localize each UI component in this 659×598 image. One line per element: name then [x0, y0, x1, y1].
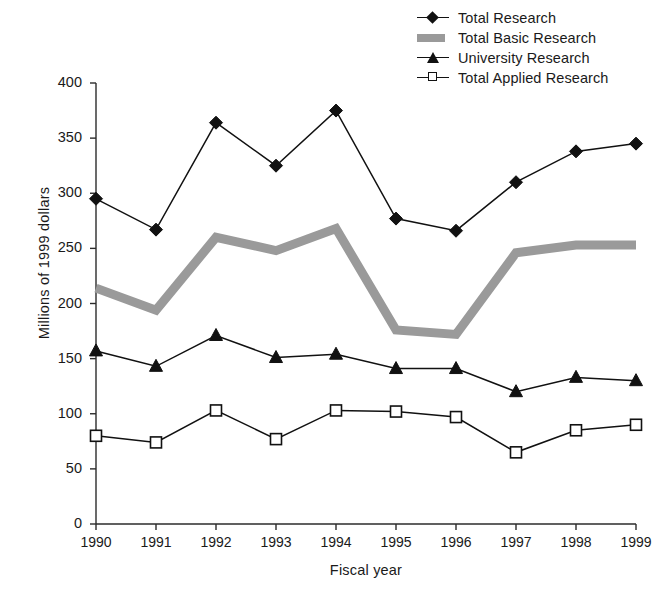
x-tick-label: 1997: [486, 534, 546, 550]
x-tick-label: 1996: [426, 534, 486, 550]
x-tick-label: 1992: [186, 534, 246, 550]
y-tick-label: 350: [38, 129, 82, 145]
x-tick-label: 1991: [126, 534, 186, 550]
x-tick-label: 1995: [366, 534, 426, 550]
y-tick-label: 200: [38, 295, 82, 311]
x-tick-label: 1998: [546, 534, 606, 550]
figure-caption: [12, 586, 652, 596]
y-tick-label: 250: [38, 239, 82, 255]
figure-chart: Total Research Total Basic Research Univ…: [0, 0, 659, 598]
y-tick-label: 50: [38, 460, 82, 476]
y-tick-label: 150: [38, 350, 82, 366]
y-tick-label: 300: [38, 184, 82, 200]
y-tick-label: 400: [38, 74, 82, 90]
x-tick-label: 1994: [306, 534, 366, 550]
x-tick-label: 1990: [66, 534, 126, 550]
y-tick-label: 100: [38, 405, 82, 421]
plot-canvas: [0, 0, 659, 598]
x-tick-label: 1993: [246, 534, 306, 550]
x-tick-label: 1999: [606, 534, 659, 550]
y-tick-label: 0: [38, 515, 82, 531]
